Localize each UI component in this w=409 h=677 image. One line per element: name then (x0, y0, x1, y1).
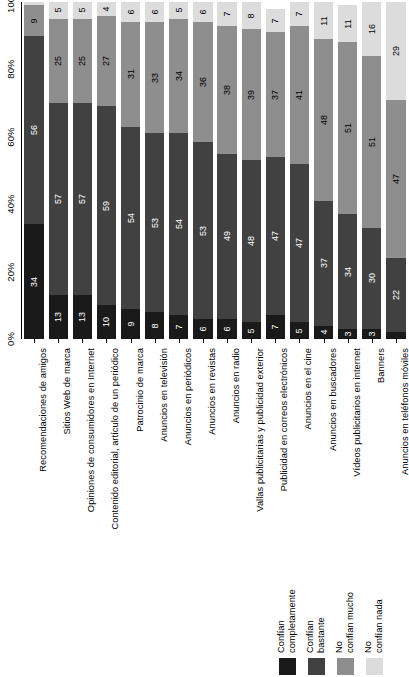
bar-segment[interactable]: 37 (266, 32, 285, 157)
bar-segment[interactable]: 34 (169, 19, 188, 134)
legend-item[interactable]: No confían nada (365, 570, 391, 675)
legend-swatch (366, 658, 383, 675)
bar-segment[interactable]: 48 (314, 39, 333, 201)
bar-segment[interactable]: 53 (193, 142, 212, 319)
bar-stack[interactable]: 3345111 (338, 2, 357, 339)
bar-stack[interactable]: 1357255 (49, 2, 68, 339)
bar-segment[interactable]: 59 (97, 106, 116, 305)
bar-segment[interactable]: 11 (338, 5, 357, 42)
legend-item[interactable]: No confían mucho (336, 570, 362, 675)
bar-segment[interactable]: 5 (242, 322, 261, 339)
bar-segment[interactable]: 6 (193, 2, 212, 22)
bar-segment[interactable]: 13 (73, 295, 92, 339)
bar-value-label: 8 (246, 13, 256, 18)
bar-segment[interactable]: 7 (169, 315, 188, 339)
bar-segment[interactable]: 25 (73, 19, 92, 103)
bar-value-label: 38 (222, 85, 232, 95)
bar-segment[interactable]: 5 (73, 2, 92, 19)
bar-stack[interactable]: 1059274 (97, 2, 116, 339)
category-tick (106, 339, 107, 343)
bar-segment[interactable]: 38 (217, 26, 236, 154)
bar-stack[interactable]: 653366 (193, 2, 212, 339)
bar-segment[interactable]: 5 (49, 2, 68, 19)
category-label: Anuncios en teléfonos móviles (400, 348, 409, 475)
bar-stack[interactable]: 954316 (121, 2, 140, 339)
bar-segment[interactable]: 51 (362, 56, 381, 228)
bar-stack[interactable]: 4374811 (314, 2, 333, 339)
bar-segment[interactable]: 8 (145, 312, 164, 339)
bar-segment[interactable]: 4 (314, 326, 333, 339)
bar-segment[interactable]: 34 (338, 214, 357, 329)
bar-stack[interactable]: 1357255 (73, 2, 92, 339)
bar-segment[interactable]: 34 (24, 224, 43, 339)
bar-segment[interactable]: 33 (145, 22, 164, 133)
bar-segment[interactable]: 41 (290, 26, 309, 164)
bar-segment[interactable]: 6 (217, 319, 236, 339)
bar-stack[interactable]: 747377 (266, 2, 285, 339)
bar-value-label: 6 (126, 10, 136, 15)
bar-segment[interactable]: 7 (217, 2, 236, 26)
bar-segment[interactable]: 8 (242, 2, 261, 29)
bar-segment[interactable] (386, 332, 405, 339)
bar-segment[interactable]: 54 (169, 133, 188, 315)
bar-stack[interactable]: 34569 (24, 2, 43, 339)
bar-segment[interactable]: 3 (362, 329, 381, 339)
bar-segment[interactable]: 6 (121, 2, 140, 22)
bar-value-label: 6 (222, 326, 232, 331)
bar-stack[interactable]: 3305116 (362, 2, 381, 339)
bar-segment[interactable]: 57 (73, 103, 92, 295)
bar-segment[interactable]: 16 (362, 2, 381, 56)
bar-segment[interactable]: 5 (290, 322, 309, 339)
bar-segment[interactable]: 39 (242, 29, 261, 160)
bar-segment[interactable]: 9 (121, 309, 140, 339)
bar-segment[interactable]: 4 (97, 2, 116, 15)
bar-segment[interactable]: 7 (266, 315, 285, 339)
bar-segment[interactable]: 25 (49, 19, 68, 103)
bar-segment[interactable]: 6 (193, 319, 212, 339)
bar-segment[interactable]: 5 (169, 2, 188, 19)
bar-stack[interactable]: 548398 (242, 2, 261, 339)
bar-segment[interactable]: 49 (217, 154, 236, 319)
bar-value-label: 6 (198, 10, 208, 15)
bar-segment[interactable]: 57 (49, 103, 68, 295)
bar-segment[interactable]: 13 (49, 295, 68, 339)
bar-segment[interactable]: 47 (386, 100, 405, 258)
value-axis-tick: 20% (4, 261, 18, 283)
bar-segment[interactable]: 30 (362, 228, 381, 329)
bar-segment[interactable]: 10 (97, 305, 116, 339)
bar-segment[interactable]: 56 (24, 36, 43, 225)
bar-value-label: 47 (270, 231, 280, 241)
bar-segment[interactable]: 3 (338, 329, 357, 339)
bar-stack[interactable]: 547417 (290, 2, 309, 339)
bar-segment[interactable]: 51 (338, 42, 357, 214)
bar-stack[interactable]: 649387 (217, 2, 236, 339)
bar-segment[interactable]: 9 (24, 5, 43, 35)
bar-segment[interactable]: 22 (386, 258, 405, 332)
bar-segment[interactable]: 54 (121, 127, 140, 309)
bar-segment[interactable]: 37 (314, 201, 333, 326)
bar-segment[interactable]: 6 (145, 2, 164, 22)
bar-segment[interactable]: 7 (290, 2, 309, 26)
bar-segment[interactable]: 31 (121, 22, 140, 126)
category-tick (348, 339, 349, 343)
bar-segment[interactable]: 48 (242, 160, 261, 322)
category-tick (58, 339, 59, 343)
legend-label: No confían nada (363, 599, 385, 653)
bar-segment[interactable] (24, 2, 43, 5)
bar-segment[interactable]: 29 (386, 2, 405, 100)
bar-value-label: 11 (319, 16, 329, 25)
legend-item[interactable]: Confían completamente (278, 570, 304, 675)
legend-item[interactable]: Confían bastante (307, 570, 333, 675)
bar-segment[interactable]: 7 (266, 9, 285, 33)
bar-stack[interactable]: 224729 (386, 2, 405, 339)
category-label: Anuncios en periódicos (183, 348, 194, 445)
bar-segment[interactable]: 47 (266, 157, 285, 315)
bar-segment[interactable]: 27 (97, 16, 116, 107)
bar-segment[interactable]: 11 (314, 2, 333, 39)
bar-segment[interactable]: 36 (193, 22, 212, 142)
bar-stack[interactable]: 754345 (169, 2, 188, 339)
bar-segment[interactable]: 47 (290, 164, 309, 322)
category-tick (131, 339, 132, 343)
bar-segment[interactable]: 53 (145, 133, 164, 312)
bar-stack[interactable]: 853336 (145, 2, 164, 339)
